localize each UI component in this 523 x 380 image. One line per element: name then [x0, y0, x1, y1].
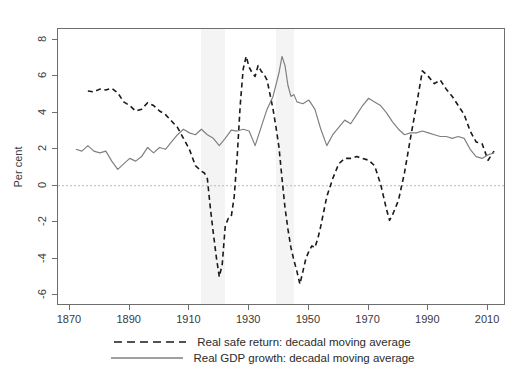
y-axis-tick-label: -6 — [36, 289, 48, 299]
legend-item-real-safe-return: Real safe return: decadal moving average — [112, 336, 411, 348]
y-axis-tick-mark — [52, 75, 57, 76]
y-axis-tick-mark — [52, 148, 57, 149]
x-axis-tick-label: 1930 — [236, 313, 260, 325]
legend-sample-solid-icon — [109, 352, 185, 364]
y-axis-tick-label: 8 — [36, 36, 48, 42]
plot-frame — [57, 28, 505, 305]
x-axis-tick-label: 1910 — [176, 313, 200, 325]
y-axis-tick-label: -4 — [36, 253, 48, 263]
y-axis-title: Per cent — [12, 146, 24, 187]
legend-label: Real safe return: decadal moving average — [197, 336, 411, 348]
x-axis-tick-mark — [308, 305, 309, 310]
y-axis-tick-label: -2 — [36, 216, 48, 226]
y-axis-tick-mark — [52, 221, 57, 222]
x-axis-tick-label: 1970 — [355, 313, 379, 325]
x-axis-tick-label: 1870 — [57, 313, 81, 325]
y-axis-tick-mark — [52, 39, 57, 40]
x-axis-tick-label: 1890 — [116, 313, 140, 325]
y-axis-tick-mark — [52, 185, 57, 186]
x-axis-tick-mark — [487, 305, 488, 310]
y-axis-tick-label: 6 — [36, 72, 48, 78]
chart-container: -6-4-20246818701890191019301950197019902… — [0, 0, 523, 380]
x-axis-tick-mark — [129, 305, 130, 310]
chart-legend: Real safe return: decadal moving average… — [0, 336, 523, 364]
series-line-1 — [76, 56, 494, 169]
x-axis-tick-mark — [427, 305, 428, 310]
legend-sample-dashed-icon — [112, 336, 188, 348]
legend-item-real-gdp-growth: Real GDP growth: decadal moving average — [109, 352, 415, 364]
legend-label: Real GDP growth: decadal moving average — [194, 352, 415, 364]
y-axis-tick-mark — [52, 294, 57, 295]
y-axis-tick-mark — [52, 112, 57, 113]
x-axis-tick-mark — [248, 305, 249, 310]
x-axis-tick-mark — [69, 305, 70, 310]
series-line-0 — [88, 56, 494, 284]
x-axis-tick-mark — [368, 305, 369, 310]
y-axis-tick-mark — [52, 258, 57, 259]
x-axis-tick-label: 1990 — [415, 313, 439, 325]
y-axis-tick-label: 0 — [36, 182, 48, 188]
plot-lines — [58, 29, 506, 306]
cropped-title-remnant — [0, 0, 523, 14]
y-axis-tick-label: 4 — [36, 109, 48, 115]
x-axis-tick-label: 1950 — [296, 313, 320, 325]
y-axis-tick-label: 2 — [36, 145, 48, 151]
x-axis-tick-mark — [188, 305, 189, 310]
x-axis-tick-label: 2010 — [475, 313, 499, 325]
